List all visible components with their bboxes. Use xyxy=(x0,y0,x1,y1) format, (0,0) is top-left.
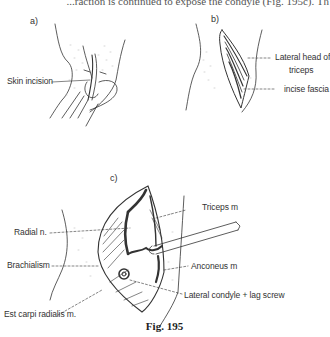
panel-b-drawing xyxy=(186,24,275,112)
callout-est-carpi-radialis: Est carpi radialis m. xyxy=(4,309,76,319)
panel-a-label: a) xyxy=(30,16,38,26)
callout-lateral-condyle-lag-screw: Lateral condyle + lag screw xyxy=(184,290,285,300)
callout-triceps: triceps xyxy=(289,65,313,75)
callout-brachialism: Brachialism xyxy=(7,260,50,270)
callout-triceps-m: Triceps m xyxy=(202,202,238,212)
panel-b-label: b) xyxy=(211,14,219,24)
callout-incise-fascia: incise fascia xyxy=(284,84,329,94)
callout-lateral-head-of: Lateral head of xyxy=(275,52,330,62)
panel-a-drawing xyxy=(50,24,125,126)
callout-radial-nerve: Radial n. xyxy=(14,227,47,237)
callout-skin-incision: Skin incision xyxy=(7,76,53,86)
figure-caption: Fig. 195 xyxy=(0,320,329,332)
panel-c-label: c) xyxy=(110,173,118,183)
callout-anconeus-m: Anconeus m xyxy=(191,261,237,271)
